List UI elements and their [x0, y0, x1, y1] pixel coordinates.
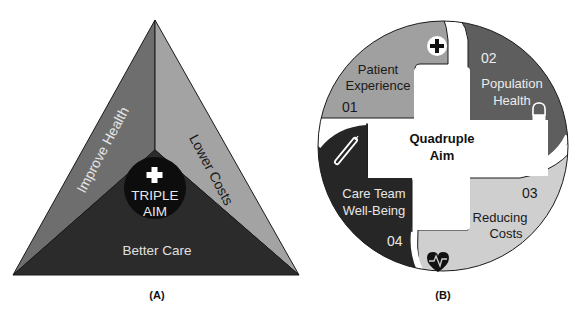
number-02: 02 — [481, 50, 497, 66]
label-patient-line1: Patient — [358, 62, 399, 77]
label-patient-line2: Experience — [345, 78, 410, 93]
label-population-line1: Population — [481, 76, 542, 91]
quadruple-aim-panel: Patient Experience 01 02 Population Heal… — [310, 0, 579, 314]
pill-capsule-icon — [533, 103, 545, 127]
label-population-line2: Health — [493, 93, 531, 108]
label-careteam-line1: Care Team — [342, 186, 405, 201]
triple-aim-panel: TRIPLE AIM Improve Health Lower Costs Be… — [13, 20, 299, 301]
number-04: 04 — [387, 233, 403, 249]
triple-aim-title-line1: TRIPLE — [131, 188, 178, 203]
caption-a: (A) — [149, 289, 165, 301]
aims-diagram: TRIPLE AIM Improve Health Lower Costs Be… — [0, 0, 579, 314]
quadruple-aim-title-line1: Quadruple — [409, 131, 474, 146]
quadruple-aim-title-line2: Aim — [430, 148, 455, 163]
number-01: 01 — [342, 99, 358, 115]
caption-b: (B) — [435, 289, 451, 301]
label-reducing-line2: Costs — [489, 226, 523, 241]
number-03: 03 — [522, 185, 538, 201]
label-reducing-line1: Reducing — [473, 210, 528, 225]
label-better-care: Better Care — [122, 243, 191, 258]
label-careteam-line2: Well-Being — [343, 203, 406, 218]
triple-aim-title-line2: AIM — [143, 204, 167, 219]
medical-cross-icon — [427, 36, 447, 56]
